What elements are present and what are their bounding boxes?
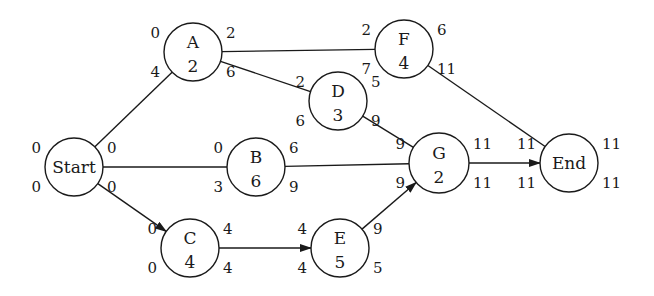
latest-start-value: 0	[31, 178, 41, 196]
earliest-start-value: 0	[213, 139, 223, 157]
latest-finish-value: 11	[437, 60, 456, 78]
activity-name: C	[183, 228, 196, 248]
activity-name: End	[552, 153, 586, 173]
earliest-start-value: 0	[150, 24, 160, 42]
activity-duration: 2	[188, 56, 199, 76]
latest-finish-value: 9	[289, 178, 299, 196]
latest-start-value: 3	[213, 178, 223, 196]
earliest-start-value: 0	[31, 139, 41, 157]
node-d: D32569	[295, 72, 380, 130]
earliest-start-value: 2	[361, 21, 371, 39]
edge-b-to-g	[285, 164, 409, 167]
earliest-finish-value: 6	[437, 21, 447, 39]
earliest-finish-value: 2	[226, 24, 236, 42]
latest-finish-value: 0	[107, 178, 117, 196]
node-f: F426711	[361, 20, 456, 78]
activity-name: Start	[52, 157, 96, 177]
activity-duration: 6	[251, 171, 262, 191]
earliest-start-value: 4	[297, 220, 307, 238]
earliest-finish-value: 9	[373, 220, 383, 238]
earliest-finish-value: 5	[371, 73, 381, 91]
nodes-layer: Start0000A20246B60639C40404D32569E54945F…	[31, 20, 621, 277]
latest-finish-value: 9	[371, 112, 381, 130]
latest-start-value: 7	[361, 60, 371, 78]
latest-start-value: 6	[295, 112, 305, 130]
latest-start-value: 11	[517, 174, 536, 192]
activity-name: B	[250, 147, 263, 167]
activity-name: A	[186, 32, 200, 52]
activity-duration: 4	[185, 252, 196, 272]
earliest-start-value: 2	[295, 73, 305, 91]
activity-name: G	[432, 143, 446, 163]
earliest-start-value: 9	[395, 135, 405, 153]
edge-start-to-a	[95, 72, 172, 147]
latest-finish-value: 11	[473, 174, 492, 192]
earliest-finish-value: 11	[602, 135, 621, 153]
edge-a-to-f	[222, 49, 375, 51]
latest-start-value: 4	[150, 63, 160, 81]
earliest-start-value: 0	[147, 220, 157, 238]
earliest-finish-value: 11	[473, 135, 492, 153]
latest-finish-value: 6	[226, 63, 236, 81]
latest-finish-value: 11	[602, 174, 621, 192]
earliest-finish-value: 6	[289, 139, 299, 157]
edge-e-to-g-arrow	[362, 183, 416, 230]
activity-duration: 2	[434, 167, 445, 187]
activity-duration: 4	[399, 53, 410, 73]
activity-name: D	[331, 81, 345, 101]
earliest-start-value: 11	[517, 135, 536, 153]
activity-name: F	[398, 29, 410, 49]
activity-duration: 3	[333, 105, 344, 125]
latest-start-value: 4	[297, 259, 307, 277]
earliest-finish-value: 4	[223, 220, 233, 238]
latest-start-value: 9	[395, 174, 405, 192]
earliest-finish-value: 0	[107, 139, 117, 157]
activity-duration: 5	[335, 252, 346, 272]
latest-finish-value: 4	[223, 259, 233, 277]
latest-finish-value: 5	[373, 259, 383, 277]
project-network-diagram: Start0000A20246B60639C40404D32569E54945F…	[0, 0, 654, 296]
activity-name: E	[334, 228, 346, 248]
latest-start-value: 0	[147, 259, 157, 277]
